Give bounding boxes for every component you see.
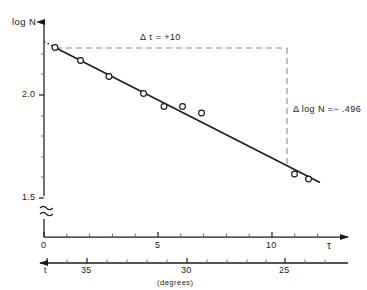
x-axis-t-degrees <box>40 258 348 263</box>
x-axis-tau <box>44 232 348 237</box>
y-axis-title: log N <box>12 17 36 27</box>
y-axis-break-symbol <box>40 206 53 215</box>
fit-line <box>55 48 320 183</box>
y-tick-label-2-0: 2.0 <box>22 90 35 99</box>
data-point <box>180 104 186 110</box>
data-point <box>292 171 298 177</box>
data-point <box>52 45 58 51</box>
data-point <box>78 58 84 64</box>
data-point <box>161 104 167 110</box>
y-tick-label-1-5: 1.5 <box>22 193 35 202</box>
t-tick-label-30: 30 <box>181 266 192 275</box>
x-tick-label-0: 0 <box>41 241 46 250</box>
t-axis-units-label: (degrees) <box>157 279 194 287</box>
data-point <box>106 74 112 80</box>
t-axis-origin-label: t <box>44 266 46 275</box>
data-point <box>199 110 205 116</box>
t-tick-label-25: 25 <box>279 266 290 275</box>
x-axis-name-tau: τ <box>327 241 331 251</box>
y-axis <box>39 22 44 198</box>
chart-plot-area <box>0 0 367 290</box>
data-point <box>306 176 312 182</box>
annotation-delta-tau: Δ τ = +10 <box>140 33 181 42</box>
x-tick-label-10: 10 <box>266 241 277 250</box>
figure-canvas: log N 2.0 1.5 0 5 10 τ t 35 30 25 (degre… <box>0 0 367 290</box>
x-tick-label-5: 5 <box>155 241 160 250</box>
annotation-delta-log-n: Δ log N =− .496 <box>293 105 361 114</box>
data-point <box>141 91 147 97</box>
t-tick-label-35: 35 <box>81 266 92 275</box>
